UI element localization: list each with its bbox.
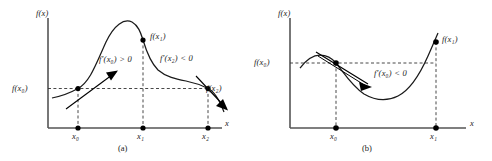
curve-point-x0 xyxy=(75,86,80,91)
tangent-arrow-x0-line-upper xyxy=(316,52,368,84)
axis-tick-point-x0 xyxy=(333,125,339,131)
x-tick-label-x1: x₁ xyxy=(430,131,437,141)
tangent-arrow-x0-head xyxy=(359,82,372,91)
tangent-arrow-x0-head xyxy=(106,71,118,81)
panel-a: f(x) x f(x₀) x₀ x₁ x₂ f(x₁) f(x₂) f′(x₀)… xyxy=(0,0,246,161)
curve-point-x0 xyxy=(333,60,339,66)
y-axis-label: f(x) xyxy=(36,8,49,18)
panel-b-caption: (b) xyxy=(362,143,372,153)
x-tick-label-x1: x₁ xyxy=(137,131,144,141)
x-axis-label: x xyxy=(470,118,474,128)
x-axis-label: x xyxy=(225,118,229,128)
y-axis-label: f(x) xyxy=(278,8,291,18)
annotation-derivative-x2: f′(x₂) < 0 xyxy=(160,53,193,63)
panel-b: f(x) x f(x₀) x₀ x₁ f(x₁) f′(x₀) < 0 (b) xyxy=(246,0,492,161)
x-tick-label-x2: x₂ xyxy=(202,131,209,141)
y-tick-label-fx0: f(x₀) xyxy=(254,57,270,67)
tangent-arrow-x2-head xyxy=(216,99,228,111)
function-curve xyxy=(300,33,438,100)
panel-b-graphic xyxy=(246,0,492,161)
x-tick-label-x0: x₀ xyxy=(72,131,79,141)
point-label-fx2: f(x₂) xyxy=(206,83,222,93)
function-curve xyxy=(52,21,224,112)
derivative-sign-figure: f(x) x f(x₀) x₀ x₁ x₂ f(x₁) f(x₂) f′(x₀)… xyxy=(0,0,492,161)
curve-point-x1 xyxy=(140,37,145,42)
curve-point-x1 xyxy=(433,39,439,45)
annotation-derivative-x0: f′(x₀) > 0 xyxy=(99,54,132,64)
tangent-arrow-x0-line-lower xyxy=(318,56,366,86)
axis-tick-point-x1 xyxy=(433,125,439,131)
y-tick-label-fx0: f(x₀) xyxy=(12,83,28,93)
x-tick-label-x0: x₀ xyxy=(330,131,337,141)
point-label-fx1: f(x₁) xyxy=(442,34,458,44)
axis-tick-point-x1 xyxy=(140,125,145,130)
panel-a-caption: (a) xyxy=(118,143,127,153)
axis-tick-point-x0 xyxy=(75,125,80,130)
annotation-derivative-x0: f′(x₀) < 0 xyxy=(374,68,407,78)
axis-tick-point-x2 xyxy=(205,125,210,130)
point-label-fx1: f(x₁) xyxy=(150,31,166,41)
